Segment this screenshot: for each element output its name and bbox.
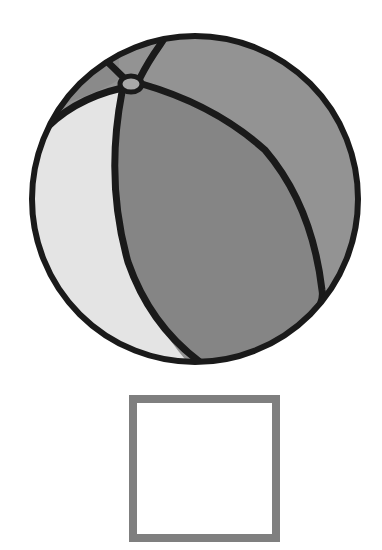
beach-ball-icon [0, 0, 382, 380]
answer-value [137, 403, 138, 404]
valve-icon [120, 76, 142, 92]
answer-box[interactable] [129, 395, 280, 542]
beach-ball-figure [0, 0, 382, 380]
